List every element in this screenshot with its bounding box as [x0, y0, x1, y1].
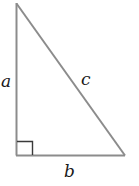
right-angle-marker-icon — [17, 142, 33, 156]
label-hypotenuse-c: c — [81, 69, 91, 89]
label-side-a: a — [1, 71, 11, 91]
right-triangle-diagram: a b c — [0, 0, 139, 186]
hypotenuse-c-line — [17, 4, 126, 156]
label-side-b: b — [64, 161, 75, 181]
triangle — [16, 3, 125, 156]
